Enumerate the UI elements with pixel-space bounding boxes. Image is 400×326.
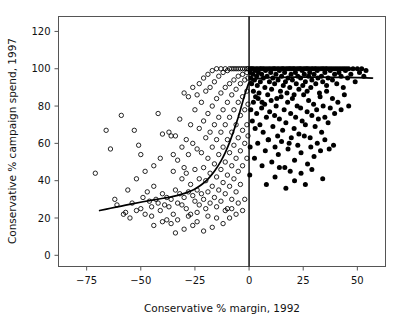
data-point-filled [280,128,285,133]
data-point-filled [270,124,275,129]
data-point-filled [279,94,284,99]
data-point-filled [339,107,344,112]
data-point-filled [255,141,260,146]
data-point-filled [260,163,265,168]
data-point-filled [294,81,299,86]
data-point-filled [331,143,336,148]
data-point-filled [364,68,369,73]
data-point-filled [267,109,272,114]
x-tick-label: 50 [351,275,364,286]
data-point-filled [282,165,287,170]
data-point-filled [305,161,310,166]
data-point-filled [348,72,353,77]
data-point-filled [318,148,323,153]
data-point-filled [272,81,277,86]
data-point-filled [273,72,278,77]
data-point-filled [269,87,274,92]
data-point-filled [287,141,292,146]
data-point-filled [250,118,255,123]
data-point-filled [253,126,258,131]
data-point-filled [314,107,319,112]
data-point-filled [256,96,261,101]
data-point-filled [341,85,346,90]
data-point-filled [288,111,293,116]
data-point-filled [292,178,297,183]
data-point-filled [273,145,278,150]
chart-figure: −75−50−2502550 020406080100120 Conservat… [0,0,400,326]
data-point-filled [287,85,292,90]
data-point-filled [262,102,267,107]
data-point-filled [315,141,320,146]
data-point-filled [313,81,318,86]
data-point-filled [284,90,289,95]
data-point-filled [267,79,272,84]
data-point-filled [264,182,269,187]
data-point-filled [305,109,310,114]
data-point-filled [301,92,306,97]
data-point-filled [247,173,252,178]
data-point-filled [296,132,301,137]
data-point-filled [324,89,329,94]
data-point-filled [274,96,279,101]
data-point-filled [269,98,274,103]
y-tick-label: 0 [44,250,50,261]
data-point-filled [320,79,325,84]
data-point-filled [353,79,358,84]
x-tick-label: −75 [76,275,97,286]
y-tick-label: 80 [38,101,51,112]
data-point-filled [306,98,311,103]
data-point-filled [272,113,277,118]
data-point-filled [316,117,321,122]
data-point-filled [327,146,332,151]
y-axis-title: Conservative % campaign spend, 1997 [6,38,18,244]
data-point-filled [295,143,300,148]
data-point-filled [303,122,308,127]
data-point-filled [252,156,257,161]
data-point-filled [346,66,351,71]
data-point-filled [309,167,314,172]
data-point-filled [290,96,295,101]
data-point-filled [292,158,297,163]
data-point-filled [283,186,288,191]
data-point-filled [248,145,253,150]
y-tick-label: 60 [38,138,51,149]
data-point-filled [277,165,282,170]
data-point-filled [289,135,294,140]
x-tick-label: 0 [246,275,252,286]
data-point-filled [266,137,271,142]
data-point-filled [330,96,335,101]
data-point-filled [308,135,313,140]
data-point-filled [285,100,290,105]
data-point-filled [277,117,282,122]
data-point-filled [335,100,340,105]
data-point-filled [322,137,327,142]
data-point-filled [334,81,339,86]
x-axis-title: Conservative % margin, 1992 [144,302,300,314]
data-point-filled [248,107,253,112]
data-point-filled [318,94,323,99]
data-point-filled [283,120,288,125]
data-point-filled [303,79,308,84]
data-point-filled [322,115,327,120]
data-point-filled [293,115,298,120]
data-point-filled [326,120,331,125]
data-point-filled [269,160,274,165]
data-point-filled [298,105,303,110]
data-point-filled [303,182,308,187]
data-point-filled [328,105,333,110]
data-point-filled [273,174,278,179]
data-point-filled [257,122,262,127]
data-point-filled [257,90,262,95]
data-point-filled [309,77,314,82]
data-point-filled [286,146,291,151]
data-point-filled [251,89,256,94]
data-point-filled [321,104,326,109]
data-point-filled [346,104,351,109]
data-point-filled [263,148,268,153]
data-point-filled [264,115,269,120]
y-tick-label: 120 [31,26,50,37]
data-point-filled [313,124,318,129]
data-point-filled [330,77,335,82]
data-point-filled [332,72,337,77]
data-point-filled [299,150,304,155]
